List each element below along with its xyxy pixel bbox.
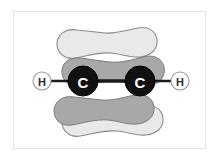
carbon-right-label: C: [135, 74, 146, 91]
hydrogen-right-label: H: [176, 76, 184, 88]
molecular-orbital-figure: H C C H: [0, 0, 221, 162]
orbital-diagram-canvas: H C C H: [0, 0, 221, 162]
hydrogen-left-label: H: [38, 76, 46, 88]
carbon-left-label: C: [78, 74, 89, 91]
pi-lobe-top-light-shape: [57, 28, 157, 59]
